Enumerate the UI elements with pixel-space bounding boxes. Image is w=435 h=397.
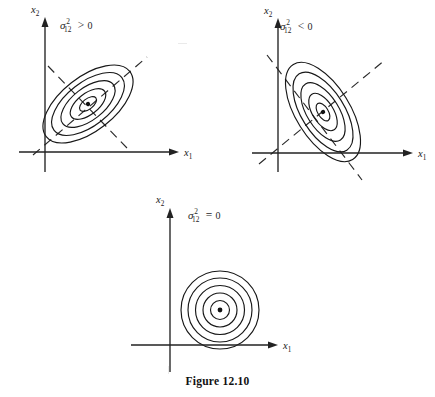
panel-2-plot: x2 x1 xyxy=(215,0,435,190)
center-dot xyxy=(218,308,223,313)
condition-label-zero: σ212=0 xyxy=(188,209,221,221)
panel-3-plot: x2 x1 xyxy=(110,190,340,375)
relation-operator: < xyxy=(298,20,305,32)
y-axis-negative xyxy=(275,18,282,172)
relation-operator: > xyxy=(78,19,85,31)
x-axis-arrowhead xyxy=(169,149,179,156)
figure-12-10: σ212>0 x2 xyxy=(0,0,435,397)
relation-value: 0 xyxy=(215,210,220,221)
y-axis-arrowhead xyxy=(167,208,174,218)
x-axis-label: x1 xyxy=(183,147,193,161)
relation-value: 0 xyxy=(87,20,92,31)
y-axis-zero xyxy=(167,208,174,372)
x-axis-label: x1 xyxy=(282,340,292,354)
relation-value: 0 xyxy=(307,21,312,32)
y-axis-label: x2 xyxy=(263,5,273,19)
contour-set-zero xyxy=(181,271,259,349)
contour-set-negative xyxy=(270,50,375,174)
figure-caption: Figure 12.10 xyxy=(0,375,435,387)
panel-1-plot: x2 x1 xyxy=(0,0,215,190)
contour-set-positive xyxy=(30,50,147,158)
y-axis-label: x2 xyxy=(155,194,165,208)
condition-label-positive: σ212>0 xyxy=(60,19,93,31)
relation-operator: = xyxy=(206,209,213,221)
y-axis-label: x2 xyxy=(30,4,40,18)
sigma-subscript: 12 xyxy=(192,215,199,224)
sigma-subscript: 12 xyxy=(284,26,291,35)
condition-label-negative: σ212<0 xyxy=(280,20,313,32)
x-axis-zero xyxy=(131,342,278,349)
sigma-subscript: 12 xyxy=(64,25,71,34)
panel-zero-covariance: σ212=0 x2 x1 xyxy=(110,190,340,375)
panel-positive-covariance: σ212>0 x2 xyxy=(0,0,215,190)
y-axis-positive xyxy=(42,17,49,172)
x-axis-arrowhead xyxy=(268,342,278,349)
x-axis-positive xyxy=(19,149,179,156)
panel-negative-covariance: σ212<0 x2 xyxy=(215,0,435,190)
y-axis-arrowhead xyxy=(42,17,49,27)
x-axis-arrowhead xyxy=(403,150,413,157)
x-axis-label: x1 xyxy=(417,148,427,162)
center-dot xyxy=(320,109,326,115)
